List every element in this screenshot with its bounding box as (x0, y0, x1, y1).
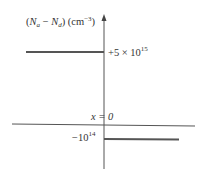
doping-profile-diagram: (Na − Nd) (cm−3) +5 × 1015 x = 0 −1014 (0, 0, 202, 176)
lower-level-line (104, 139, 179, 140)
y-axis-arrow-icon (102, 14, 107, 21)
origin-label: x = 0 (90, 111, 114, 122)
upper-level-label: +5 × 1015 (108, 45, 148, 58)
lower-level-label: −1014 (72, 130, 96, 143)
y-axis-label: (Na − Nd) (cm−3) (26, 15, 96, 29)
